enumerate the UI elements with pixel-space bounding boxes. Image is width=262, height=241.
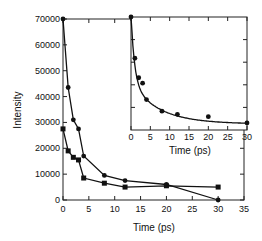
square-marker	[123, 185, 128, 190]
inset-circle-marker	[144, 97, 149, 102]
x-tick-label: 30	[213, 204, 223, 214]
square-marker	[81, 176, 86, 181]
circle-marker	[81, 154, 86, 159]
inset-circle-marker	[175, 112, 180, 117]
inset-x-tick-label: 15	[184, 132, 194, 142]
inset-circle-marker	[136, 75, 141, 80]
x-axis-label: Time (ps)	[133, 222, 175, 233]
inset-circle-marker	[129, 15, 134, 20]
y-tick-label: 10000	[35, 169, 60, 179]
y-tick-label: 60000	[35, 40, 60, 50]
circle-marker	[102, 173, 107, 178]
y-tick-label: 20000	[35, 143, 60, 153]
inset-circle-marker	[140, 81, 145, 86]
x-tick-label: 35	[239, 204, 249, 214]
inset-circle-marker	[132, 56, 137, 61]
square-marker	[216, 185, 221, 190]
circle-marker	[216, 198, 221, 203]
inset-plot-frame	[131, 17, 247, 130]
y-tick-label: 30000	[35, 117, 60, 127]
inset-circle-marker	[206, 114, 211, 119]
x-tick-label: 15	[136, 204, 146, 214]
circle-marker	[71, 117, 76, 122]
inset-x-axis-label: Time (ps)	[169, 145, 211, 156]
inset-x-tick-label: 30	[242, 132, 252, 142]
circle-marker	[76, 126, 81, 131]
inset-x-tick-label: 25	[223, 132, 233, 142]
circle-marker	[123, 178, 128, 183]
inset-x-tick-label: 20	[203, 132, 213, 142]
y-tick-label: 50000	[35, 66, 60, 76]
y-tick-label: 70000	[35, 14, 60, 24]
square-marker	[61, 126, 66, 131]
inset-circle-marker	[245, 120, 250, 125]
y-axis-label: Intensity	[12, 91, 23, 128]
intensity-chart: 0510152025303501000020000300004000050000…	[0, 0, 262, 241]
square-marker	[66, 148, 71, 153]
inset-x-tick-label: 0	[128, 132, 133, 142]
y-tick-label: 40000	[35, 92, 60, 102]
square-marker	[102, 181, 107, 186]
circle-marker	[66, 85, 71, 90]
square-marker	[76, 157, 81, 162]
x-tick-label: 10	[110, 204, 120, 214]
x-tick-label: 20	[161, 204, 171, 214]
x-tick-label: 5	[86, 204, 91, 214]
x-tick-label: 25	[187, 204, 197, 214]
square-marker	[71, 155, 76, 160]
x-tick-label: 0	[60, 204, 65, 214]
circle-marker	[61, 17, 66, 22]
inset-circle-marker	[160, 109, 165, 114]
inset-x-tick-label: 10	[165, 132, 175, 142]
square-marker	[164, 183, 169, 188]
y-tick-label: 0	[55, 195, 60, 205]
inset-x-tick-label: 5	[148, 132, 153, 142]
